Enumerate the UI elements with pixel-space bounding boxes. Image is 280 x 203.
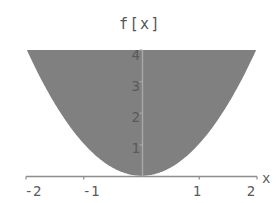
x-tick-label-1: 1 bbox=[186, 184, 208, 198]
x-axis-label: x bbox=[262, 171, 270, 185]
y-tick-label-1: 1 bbox=[124, 141, 140, 155]
chart-figure: f[x] 4 3 2 1 -2 -1 1 2 x bbox=[0, 0, 280, 203]
x-tick-label-minus1: -1 bbox=[80, 184, 102, 198]
y-tick-label-3: 3 bbox=[124, 79, 140, 93]
y-tick-label-2: 2 bbox=[124, 110, 140, 124]
y-tick-label-4: 4 bbox=[124, 48, 140, 62]
x-tick-label-minus2: -2 bbox=[22, 184, 44, 198]
plot-canvas bbox=[0, 0, 280, 203]
x-tick-label-2: 2 bbox=[240, 184, 262, 198]
